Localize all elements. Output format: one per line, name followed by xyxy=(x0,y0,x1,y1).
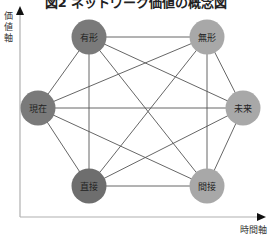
node-direct: 直接 xyxy=(72,169,107,204)
y-axis-label-3: 軸 xyxy=(4,32,13,43)
node-future: 未来 xyxy=(226,91,261,126)
y-axis-label-2: 値 xyxy=(4,21,13,32)
x-axis-arrow-icon xyxy=(257,213,266,221)
node-label: 直接 xyxy=(80,181,98,192)
node-label: 間接 xyxy=(198,181,216,192)
nodes: 有形無形現在未来直接間接 xyxy=(21,20,261,204)
node-present: 現在 xyxy=(21,91,56,126)
edges xyxy=(38,37,243,186)
node-indirect: 間接 xyxy=(190,169,225,204)
node-label: 現在 xyxy=(29,103,47,114)
node-label: 有形 xyxy=(80,32,98,43)
y-axis-label-1: 価 xyxy=(4,10,13,21)
y-axis-arrow-icon xyxy=(16,6,24,15)
node-tangible: 有形 xyxy=(72,20,107,55)
x-axis-label: 時間軸 xyxy=(240,224,267,235)
node-label: 無形 xyxy=(198,32,216,43)
network-diagram: 価 値 軸 時間軸 有形無形現在未来直接間接 xyxy=(0,0,272,237)
node-label: 未来 xyxy=(234,103,252,114)
node-intangible: 無形 xyxy=(190,20,225,55)
